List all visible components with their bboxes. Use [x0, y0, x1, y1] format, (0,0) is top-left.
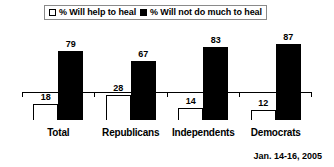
bar-wrap-total-not-help: 79	[58, 28, 83, 120]
category-label-democrats: Democrats	[240, 127, 313, 138]
x-axis-tick	[167, 92, 168, 97]
bar-groups: 18 79 28 67 14 83	[22, 28, 312, 120]
chart-footnote-date: Jan. 14-16, 2005	[253, 151, 322, 161]
legend-item-not-help: % Will not do much to heal	[140, 7, 262, 17]
category-label-total: Total	[22, 127, 95, 138]
bar-wrap-democrats-not-help: 87	[276, 28, 301, 120]
x-axis	[22, 92, 312, 98]
bar-wrap-independents-help: 14	[178, 28, 203, 120]
bar-total-not-help	[58, 51, 83, 120]
bar-democrats-help	[251, 110, 276, 120]
bar-group-independents: 14 83	[167, 28, 240, 120]
bar-wrap-republicans-not-help: 67	[131, 28, 156, 120]
bar-group-total: 18 79	[22, 28, 95, 120]
open-square-icon	[49, 9, 56, 16]
bar-value-total-not-help: 79	[66, 39, 76, 50]
bar-republicans-not-help	[131, 61, 156, 120]
bar-group-republicans: 28 67	[95, 28, 168, 120]
bar-value-democrats-not-help: 87	[283, 32, 293, 43]
x-axis-tick	[22, 92, 23, 97]
bar-democrats-not-help	[276, 44, 301, 120]
bar-value-independents-not-help: 83	[211, 35, 221, 46]
legend-label-not-help: % Will not do much to heal	[150, 7, 262, 17]
x-axis-tick	[239, 92, 240, 97]
filled-square-icon	[140, 9, 147, 16]
bar-wrap-total-help: 18	[33, 28, 58, 120]
x-axis-tick	[311, 92, 312, 97]
category-label-independents: Independents	[167, 127, 240, 138]
bar-wrap-democrats-help: 12	[251, 28, 276, 120]
bar-group-democrats: 12 87	[240, 28, 313, 120]
bar-republicans-help	[106, 95, 131, 120]
legend-item-help: % Will help to heal	[49, 7, 136, 17]
legend-label-help: % Will help to heal	[59, 7, 136, 17]
bar-value-democrats-help: 12	[258, 98, 268, 109]
x-axis-tick	[94, 92, 95, 97]
bar-independents-help	[178, 108, 203, 120]
x-axis-category-labels: Total Republicans Independents Democrats	[22, 127, 312, 138]
category-label-republicans: Republicans	[95, 127, 168, 138]
chart-legend: % Will help to heal % Will not do much t…	[44, 5, 267, 20]
bar-wrap-independents-not-help: 83	[203, 28, 228, 120]
bar-independents-not-help	[203, 47, 228, 120]
bar-wrap-republicans-help: 28	[106, 28, 131, 120]
bar-total-help	[33, 104, 58, 120]
bar-value-republicans-not-help: 67	[138, 49, 148, 60]
chart-plot-area: 18 79 28 67 14 83	[0, 28, 334, 123]
